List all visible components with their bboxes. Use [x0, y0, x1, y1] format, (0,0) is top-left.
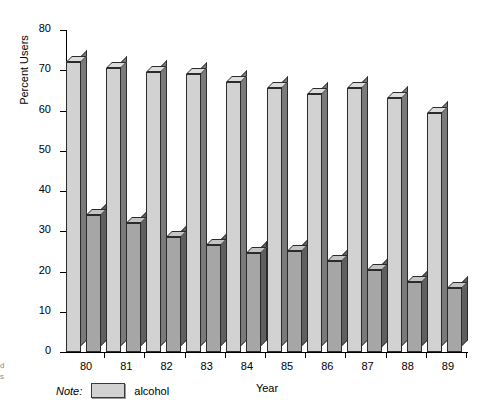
bar-front-face: [86, 215, 101, 352]
bar-alcohol-80: [66, 62, 81, 352]
bar-front-face: [327, 261, 342, 352]
x-tick-label: 83: [192, 360, 222, 372]
x-tick: [345, 352, 346, 358]
bar-alcohol-87: [347, 88, 362, 352]
bar-front-face: [407, 282, 422, 352]
bar-side-face: [121, 56, 127, 346]
bar-front-face: [447, 288, 462, 352]
x-tick-label: 82: [152, 360, 182, 372]
legend-label-alcohol: alcohol: [134, 385, 169, 397]
y-tick-label: 20: [21, 264, 51, 276]
bar-front-face: [267, 88, 282, 352]
bar-front-face: [427, 113, 442, 352]
y-tick-label: 40: [21, 183, 51, 195]
bar-front-face: [226, 82, 241, 352]
y-tick-label: 50: [21, 143, 51, 155]
x-axis-line: [66, 352, 468, 353]
y-tick-label: 30: [21, 223, 51, 235]
bar-alcohol-85: [267, 88, 282, 352]
legend-note-label: Note:: [56, 385, 82, 397]
bar-side-face: [402, 86, 408, 346]
bar-front-face: [146, 72, 161, 352]
x-tick-label: 89: [433, 360, 463, 372]
x-tick: [305, 352, 306, 358]
y-tick-label: 0: [21, 344, 51, 356]
x-tick: [386, 352, 387, 358]
x-tick-label: 84: [232, 360, 262, 372]
x-tick-label: 86: [312, 360, 342, 372]
bar-front-face: [287, 251, 302, 352]
bar-series-1-87: [367, 270, 382, 353]
bar-side-face: [282, 76, 288, 346]
bar-front-face: [186, 74, 201, 352]
bar-series-1-85: [287, 251, 302, 352]
x-tick-label: 81: [111, 360, 141, 372]
bar-chart-figure: d s Percent Users 01020304050607080 8081…: [0, 0, 488, 409]
bar-series-1-86: [327, 261, 342, 352]
x-tick: [426, 352, 427, 358]
bar-series-1-82: [166, 237, 181, 352]
y-tick: 0: [60, 352, 66, 353]
y-tick-label: 10: [21, 304, 51, 316]
bar-series-1-89: [447, 288, 462, 352]
bar-alcohol-89: [427, 113, 442, 352]
bar-front-face: [367, 270, 382, 353]
bar-front-face: [166, 237, 181, 352]
bar-front-face: [66, 62, 81, 352]
bar-alcohol-88: [387, 98, 402, 352]
x-tick: [185, 352, 186, 358]
bar-front-face: [347, 88, 362, 352]
bar-side-face: [442, 101, 448, 346]
margin-glyph-1: d: [0, 360, 14, 371]
y-tick-label: 60: [21, 103, 51, 115]
bar-front-face: [126, 223, 141, 352]
bar-series-1-81: [126, 223, 141, 352]
bar-front-face: [206, 245, 221, 352]
legend: Note: alcohol: [56, 383, 169, 398]
bar-front-face: [387, 98, 402, 352]
x-tick: [466, 352, 467, 358]
y-tick: 80: [60, 30, 66, 31]
plot-area: 01020304050607080 80818283848586878889 Y…: [66, 30, 468, 352]
bar-front-face: [106, 68, 121, 352]
bar-side-face: [201, 62, 207, 346]
bar-alcohol-81: [106, 68, 121, 352]
x-tick-label: 85: [272, 360, 302, 372]
x-tick: [265, 352, 266, 358]
bar-series-1-83: [206, 245, 221, 352]
y-tick-label: 70: [21, 62, 51, 74]
bar-alcohol-86: [307, 94, 322, 352]
x-tick-label: 88: [393, 360, 423, 372]
bar-side-face: [161, 60, 167, 346]
bar-front-face: [307, 94, 322, 352]
bar-front-face: [246, 253, 261, 352]
bar-side-face: [322, 82, 328, 346]
x-tick: [225, 352, 226, 358]
x-tick: [104, 352, 105, 358]
bar-series-1-88: [407, 282, 422, 352]
margin-glyph-2: s: [0, 371, 14, 382]
bar-alcohol-83: [186, 74, 201, 352]
bar-series-1-80: [86, 215, 101, 352]
bar-side-face: [362, 76, 368, 346]
x-tick-label: 80: [71, 360, 101, 372]
y-tick-label: 80: [21, 22, 51, 34]
x-tick: [144, 352, 145, 358]
legend-swatch-alcohol: [91, 383, 125, 398]
bar-side-face: [241, 70, 247, 346]
margin-cutoff-glyphs: d s: [0, 360, 14, 382]
x-tick-label: 87: [353, 360, 383, 372]
bar-side-face: [81, 50, 87, 346]
bar-alcohol-82: [146, 72, 161, 352]
bar-series-1-84: [246, 253, 261, 352]
bar-alcohol-84: [226, 82, 241, 352]
